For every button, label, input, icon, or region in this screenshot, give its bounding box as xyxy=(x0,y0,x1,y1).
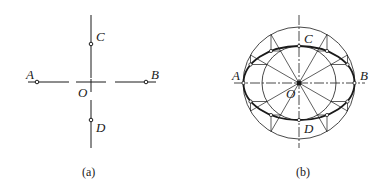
point-c-marker xyxy=(89,42,93,46)
label-o-fig-a: O xyxy=(78,85,88,100)
point-c-marker xyxy=(297,44,300,47)
label-a-fig-a: A xyxy=(25,67,34,82)
label-b-fig-a: B xyxy=(151,67,159,82)
point-a-marker xyxy=(35,80,39,84)
label-a-fig-b: A xyxy=(231,68,240,83)
point-d-marker xyxy=(89,118,93,122)
figure-b xyxy=(234,15,365,148)
label-b-fig-b: B xyxy=(360,68,368,83)
point-a-marker xyxy=(242,81,245,84)
point-b-marker xyxy=(144,80,148,84)
center-point xyxy=(297,81,302,86)
label-c-fig-a: C xyxy=(96,29,105,44)
ellipse-construction-diagram: A B C D O (a) xyxy=(0,0,388,191)
caption-a: (a) xyxy=(82,165,95,179)
label-d-fig-a: D xyxy=(95,120,106,135)
point-d-marker xyxy=(297,118,300,121)
point-b-marker xyxy=(353,81,356,84)
label-o-fig-b: O xyxy=(286,86,296,101)
caption-b: (b) xyxy=(296,165,310,179)
label-d-fig-b: D xyxy=(303,121,314,136)
figure-a xyxy=(28,15,156,148)
label-c-fig-b: C xyxy=(304,31,313,46)
